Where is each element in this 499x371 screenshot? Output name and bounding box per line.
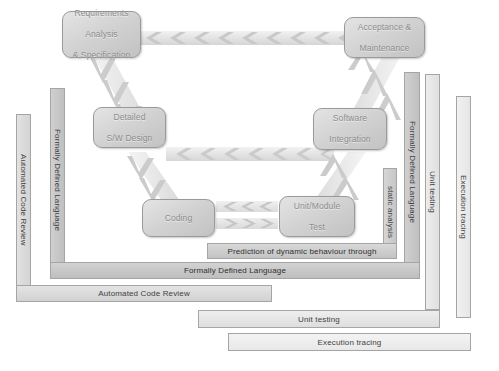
bracket-formally-defined-language-right-label: Formally Defined Language <box>408 121 417 223</box>
phase-line: Test <box>291 222 343 233</box>
phase-line: Maintenance <box>355 43 415 54</box>
bracket-execution-tracing-right-leg: Execution tracing <box>456 96 471 318</box>
phase-line: Coding <box>162 213 196 224</box>
arrow-coding-to-unit-test <box>216 217 278 230</box>
phase-line: Requirements <box>70 8 134 19</box>
phase-line: Detailed <box>104 112 156 123</box>
phase-label-detailed-design: Detailed S/W Design <box>101 112 159 144</box>
phase-line: Unit/Module <box>291 201 343 212</box>
bracket-formally-defined-language-bottom-label: Formally Defined Language <box>184 266 286 275</box>
phase-line: S/W Design <box>104 133 156 144</box>
bracket-formally-defined-language-left-label: Formally Defined Language <box>53 129 62 231</box>
bracket-automated-code-review-bottom-label: Automated Code Review <box>98 289 190 298</box>
bracket-prediction-bottom-label: Prediction of dynamic behaviour through <box>227 247 376 256</box>
bracket-formally-defined-language-bottom: Formally Defined Language <box>50 262 420 279</box>
bracket-formally-defined-language-left-leg: Formally Defined Language <box>50 88 65 272</box>
phase-box-software-integration[interactable]: Software Integration <box>313 108 387 150</box>
phase-box-coding[interactable]: Coding <box>142 199 215 237</box>
bracket-unit-testing-bottom: Unit testing <box>198 310 440 328</box>
bracket-unit-testing-bottom-label: Unit testing <box>298 315 340 324</box>
phase-box-unit-module-test[interactable]: Unit/Module Test <box>279 196 355 237</box>
phase-label-software-integration: Software Integration <box>323 113 376 145</box>
bracket-execution-tracing-bottom-label: Execution tracing <box>318 338 382 347</box>
bracket-automated-code-review-left-leg: Automated Code Review <box>16 114 31 286</box>
bracket-execution-tracing-right-label: Execution tracing <box>459 175 468 239</box>
v-model-diagram: Execution tracing Execution tracing Unit… <box>0 0 499 371</box>
bracket-automated-code-review-bottom: Automated Code Review <box>16 285 272 302</box>
phase-line: Acceptance & <box>355 22 415 33</box>
bracket-prediction-bottom: Prediction of dynamic behaviour through <box>207 243 397 259</box>
phase-line: & Specification <box>70 50 134 61</box>
phase-label-coding: Coding <box>159 213 199 224</box>
phase-label-requirements: Requirements Analysis & Specification <box>67 8 137 61</box>
phase-line: Integration <box>326 134 373 145</box>
bracket-execution-tracing-bottom: Execution tracing <box>228 333 471 351</box>
bracket-unit-testing-right-label: Unit testing <box>428 171 437 213</box>
phase-line: Analysis <box>70 29 134 40</box>
arrow-acceptance-to-requirements <box>134 29 366 47</box>
phase-line: Software <box>326 113 373 124</box>
phase-box-detailed-design[interactable]: Detailed S/W Design <box>93 107 166 148</box>
phase-box-acceptance-maintenance[interactable]: Acceptance & Maintenance <box>344 17 425 58</box>
arrow-detailed-design-to-coding <box>124 152 188 204</box>
bracket-unit-testing-right-leg: Unit testing <box>425 74 440 310</box>
phase-label-acceptance-maintenance: Acceptance & Maintenance <box>352 22 418 54</box>
bracket-automated-code-review-left-label: Automated Code Review <box>19 154 28 246</box>
phase-box-requirements[interactable]: Requirements Analysis & Specification <box>62 11 141 58</box>
phase-label-unit-module-test: Unit/Module Test <box>288 201 346 233</box>
arrow-unit-test-to-coding <box>216 200 278 213</box>
bracket-prediction-right-label: static analysis <box>386 186 395 238</box>
